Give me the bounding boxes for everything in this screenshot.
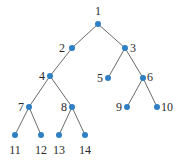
node-label-7: 7 xyxy=(18,100,24,114)
node-label-9: 9 xyxy=(116,100,122,114)
node-label-12: 12 xyxy=(35,143,47,157)
node-label-1: 1 xyxy=(95,4,101,18)
node-label-14: 14 xyxy=(79,143,91,157)
node-4 xyxy=(47,73,53,79)
node-label-2: 2 xyxy=(59,41,65,55)
edge-1-3 xyxy=(98,24,125,48)
node-1 xyxy=(95,21,101,27)
node-7 xyxy=(26,104,32,110)
node-label-11: 11 xyxy=(9,143,21,157)
node-12 xyxy=(38,132,44,138)
node-3 xyxy=(122,45,128,51)
edge-8-14 xyxy=(72,107,85,135)
tree-diagram: 1234567891011121314 xyxy=(0,0,180,162)
node-2 xyxy=(69,45,75,51)
node-14 xyxy=(82,132,88,138)
edge-7-12 xyxy=(29,107,41,135)
node-9 xyxy=(124,104,130,110)
node-label-6: 6 xyxy=(147,70,153,84)
node-label-13: 13 xyxy=(53,143,65,157)
edge-3-5 xyxy=(108,48,125,78)
edge-6-9 xyxy=(127,78,143,107)
node-label-10: 10 xyxy=(161,100,173,114)
node-8 xyxy=(69,104,75,110)
nodes-group xyxy=(12,21,160,138)
node-label-3: 3 xyxy=(130,41,136,55)
node-13 xyxy=(56,132,62,138)
node-6 xyxy=(140,75,146,81)
edge-1-2 xyxy=(72,24,98,48)
labels-group: 1234567891011121314 xyxy=(9,4,173,157)
node-label-4: 4 xyxy=(39,69,45,83)
node-11 xyxy=(12,132,18,138)
node-label-8: 8 xyxy=(61,100,67,114)
node-5 xyxy=(105,75,111,81)
node-label-5: 5 xyxy=(97,71,103,85)
node-10 xyxy=(154,104,160,110)
